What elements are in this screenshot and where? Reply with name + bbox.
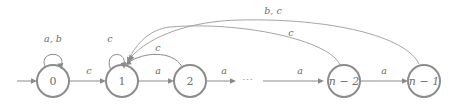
transition-sn1-to-s1: b, c [129, 5, 419, 65]
state-node-n-minus-1[interactable]: n − 1 [408, 65, 440, 97]
state-node-0[interactable]: 0 [37, 65, 69, 97]
state-node-2[interactable]: 2 [174, 65, 206, 97]
state-n-minus-2-label: n − 2 [329, 75, 359, 88]
edge-label-sn2-sn1: a [381, 65, 387, 76]
edge-label-dots-sn2: a [297, 65, 303, 76]
transition-s0-to-s1: c [69, 65, 106, 84]
transition-ellipsis-to-sn2: a [263, 65, 324, 84]
edge-label-sn2-s1: c [288, 27, 294, 38]
state-1-label: 1 [119, 75, 126, 88]
edge-label-s1-s2: a [155, 65, 161, 76]
state-n-minus-1-label: n − 1 [409, 75, 439, 88]
edge-label-s0-s1: c [86, 65, 92, 76]
edge-label-s2-s1: c [155, 42, 161, 53]
automaton-svg: a, b c c a c a [0, 0, 451, 109]
transition-sn2-to-sn1: a [360, 65, 408, 84]
transition-s2-to-ellipsis: a [206, 65, 236, 84]
edge-label-s2-dots: a [221, 65, 227, 76]
transition-s1-self-loop: c [107, 33, 126, 70]
transition-s0-self-loop: a, b [44, 33, 63, 70]
state-node-1[interactable]: 1 [106, 65, 138, 97]
automaton-diagram: a, b c c a c a [0, 0, 451, 109]
s2-dots-arrowhead [230, 78, 236, 84]
s1-self-loop-path [109, 54, 124, 69]
transition-initial-arrow [17, 78, 37, 84]
ellipsis: ⋯ [242, 74, 255, 87]
dots-sn2-arrowhead [318, 78, 324, 84]
state-2-label: 2 [187, 75, 194, 88]
state-node-n-minus-2[interactable]: n − 2 [328, 65, 360, 97]
edge-label-s0-self: a, b [44, 33, 62, 44]
edge-label-sn1-s1: b, c [264, 5, 282, 16]
edge-label-s1-self: c [107, 33, 113, 44]
state-0-label: 0 [50, 75, 57, 88]
transition-s1-to-s2: a [138, 65, 174, 84]
